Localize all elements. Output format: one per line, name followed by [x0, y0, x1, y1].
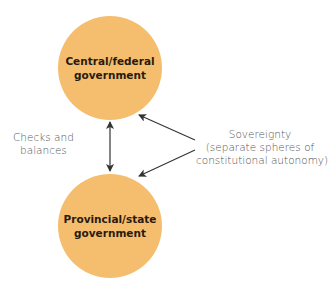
sovereignty-to-central-arrow	[139, 115, 195, 140]
central-node-line1: Central/federal	[62, 54, 158, 68]
provincial-node-line1: Provincial/state	[62, 212, 158, 226]
sovereignty-label: Sovereignty (separate spheres of constit…	[196, 128, 324, 167]
sovereignty-label-line3: constitutional autonomy)	[196, 154, 324, 167]
sovereignty-label-line2: (separate spheres of	[196, 141, 324, 154]
provincial-government-node: Provincial/state government	[58, 174, 162, 278]
central-node-line2: government	[62, 68, 158, 82]
central-government-node: Central/federal government	[58, 16, 162, 120]
checks-label-line1: Checks and	[13, 131, 74, 144]
checks-and-balances-label: Checks and balances	[13, 131, 74, 157]
sovereignty-label-line1: Sovereignty	[196, 128, 324, 141]
sovereignty-to-provincial-arrow	[139, 150, 195, 176]
provincial-node-line2: government	[62, 226, 158, 240]
checks-label-line2: balances	[13, 144, 74, 157]
